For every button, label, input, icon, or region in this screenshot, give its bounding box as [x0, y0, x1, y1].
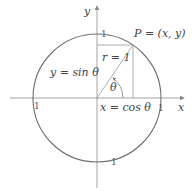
tick-right: 1	[158, 104, 164, 113]
sin-label: y = sin θ	[50, 67, 99, 78]
point-label: P = (x, y)	[134, 28, 186, 39]
y-axis-label: y	[84, 6, 90, 17]
angle-label: θ	[110, 82, 117, 93]
tick-left: 1	[34, 102, 40, 111]
radius-label: r = 1	[102, 52, 130, 63]
cos-label: x = cos θ	[100, 102, 151, 113]
tick-top: 1	[101, 30, 107, 39]
x-axis-label: x	[178, 102, 184, 113]
tick-bottom: 1	[111, 158, 117, 167]
